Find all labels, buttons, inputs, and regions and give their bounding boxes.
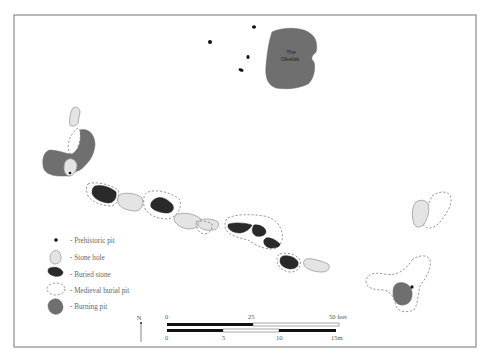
legend-label: - Stone hole	[70, 254, 105, 262]
prehistoric-pit	[208, 40, 212, 44]
buried-stone	[252, 225, 266, 237]
scale-m-segment-3	[279, 329, 336, 332]
burning-pit	[393, 282, 412, 305]
prehistoric-pit	[252, 25, 256, 29]
prehistoric-pit	[69, 172, 72, 175]
scale-feet-tick-25: 25	[248, 313, 255, 320]
east-lower-group	[366, 256, 430, 312]
stone-hole	[174, 213, 201, 229]
scale-m-segment-2	[223, 329, 279, 332]
scale-feet-segment-2	[253, 323, 339, 326]
north-arrow-head-icon	[140, 322, 142, 324]
north-label: N	[137, 314, 142, 321]
legend-label: - Medieval burial pit	[70, 287, 129, 295]
site-plan: The Obelisk	[0, 0, 487, 360]
obelisk-label-line1: The	[286, 49, 295, 55]
scale-feet-tick-50: 50 feet	[329, 313, 347, 320]
legend-item-medieval-burial-pit: - Medieval burial pit	[47, 283, 129, 295]
buried-stone	[280, 256, 298, 269]
stone-hole	[70, 107, 80, 126]
legend-item-burning-pit: - Burning pit	[48, 299, 107, 314]
legend: - Prehistoric pit - Stone hole - Buried …	[47, 237, 129, 314]
buried-stone	[228, 223, 252, 233]
scale-bar: 0 25 50 feet 0 5 10 15m	[165, 313, 347, 341]
stone-hole	[118, 193, 143, 211]
scale-m-tick-0: 0	[165, 334, 168, 341]
legend-label: - Burning pit	[70, 303, 107, 311]
burning-pit-icon	[48, 299, 63, 314]
legend-item-buried-stone: - Buried stone	[48, 267, 111, 279]
prehistoric-pit	[410, 285, 413, 289]
obelisk-label-line2: Obelisk	[281, 56, 300, 62]
buried-stone	[151, 197, 174, 213]
medieval-burial-pit-icon	[47, 283, 65, 295]
west-feature-group	[43, 107, 95, 176]
scale-m-tick-10: 10	[276, 334, 283, 341]
legend-label: - Buried stone	[70, 271, 111, 279]
stone-hole-icon	[50, 250, 61, 264]
legend-item-stone-hole: - Stone hole	[50, 250, 105, 264]
central-alignment	[87, 183, 330, 272]
buried-stone	[264, 238, 280, 248]
scale-m-segment-1	[167, 329, 223, 332]
prehistoric-pit	[238, 68, 244, 73]
buried-stone	[92, 185, 116, 203]
north-arrow: N	[137, 314, 142, 342]
stone-hole	[412, 200, 428, 227]
scale-feet-tick-0: 0	[165, 313, 168, 320]
prehistoric-pits-north	[208, 25, 256, 72]
prehistoric-pit	[246, 55, 249, 59]
scale-feet-segment-1	[167, 323, 253, 326]
buried-stone-icon	[48, 267, 63, 276]
stone-hole	[304, 259, 330, 272]
legend-item-prehistoric-pit: - Prehistoric pit	[54, 237, 115, 245]
legend-label: - Prehistoric pit	[70, 237, 115, 245]
east-upper-group	[412, 192, 451, 228]
obelisk-feature: The Obelisk	[266, 28, 317, 89]
scale-m-tick-5: 5	[222, 334, 225, 341]
scale-m-tick-15: 15m	[331, 334, 343, 341]
prehistoric-pit-icon	[54, 238, 58, 242]
